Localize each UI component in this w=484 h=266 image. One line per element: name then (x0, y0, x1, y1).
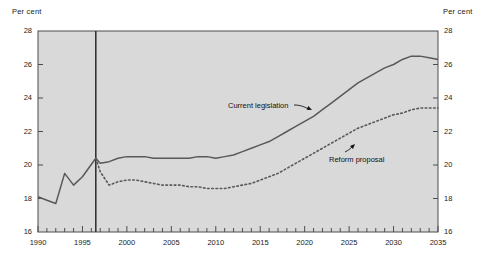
plot-svg (0, 0, 484, 266)
plot-background (38, 31, 438, 232)
annotation-reform-proposal: Reform proposal (329, 155, 384, 164)
annotation-current-legislation: Current legislation (228, 101, 288, 110)
chart-container: Per cent Per cent 16182022242628 1618202… (0, 0, 484, 266)
